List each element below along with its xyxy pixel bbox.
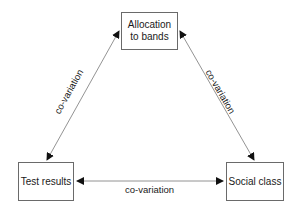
node-label-line1: Allocation (128, 19, 171, 31)
node-label: Social class (229, 176, 282, 188)
edge-label-bottom: co-variation (125, 184, 174, 195)
node-label: Test results (21, 176, 72, 188)
edge-allocation-test (47, 31, 119, 160)
node-test-results: Test results (18, 162, 74, 201)
node-social-class: Social class (226, 162, 284, 201)
node-allocation-to-bands: Allocation to bands (121, 12, 178, 50)
node-label-line2: to bands (130, 31, 168, 43)
